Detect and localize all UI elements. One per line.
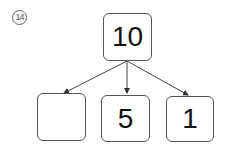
arrow-left (64, 61, 127, 93)
child-box-1: 1 (166, 96, 214, 142)
top-box: 10 (103, 13, 152, 61)
child-box-blank[interactable] (37, 93, 86, 141)
child-box-5: 5 (101, 95, 150, 142)
arrow-right (127, 61, 188, 95)
